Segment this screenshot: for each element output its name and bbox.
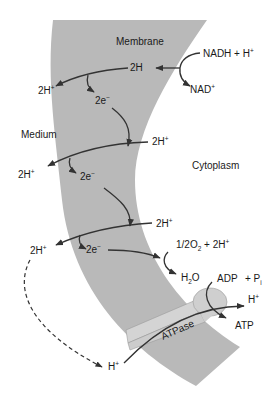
two-h-plus-out-2: 2H+	[18, 168, 35, 180]
nad-label: NAD+	[190, 83, 215, 95]
nadh-label: NADH + H+	[203, 47, 254, 59]
cytoplasm-label: Cytoplasm	[192, 160, 239, 171]
two-h-plus-out-3: 2H+	[30, 244, 47, 256]
h-plus-medium-label: H+	[108, 360, 119, 372]
medium-label: Medium	[21, 129, 57, 140]
h-plus-cytoplasm-label: H+	[248, 293, 259, 305]
water-label: H2O	[181, 272, 200, 285]
two-h-plus-in-1: 2H+	[152, 135, 169, 147]
two-h-label: 2H	[130, 62, 143, 73]
half-oxygen-label: 1/2O2 + 2H+	[176, 238, 230, 252]
phosphate-label: + Pi	[245, 273, 262, 286]
electron-transport-diagram: Membrane Medium Cytoplasm NADH + H+ NAD+…	[0, 0, 278, 398]
atp-label: ATP	[235, 320, 254, 331]
adp-label: ADP	[217, 273, 238, 284]
membrane-label: Membrane	[116, 36, 164, 47]
two-h-plus-in-2: 2H+	[156, 217, 173, 229]
